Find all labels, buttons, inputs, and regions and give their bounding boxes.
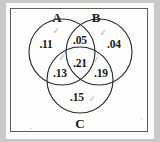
set-label-a: A — [52, 11, 61, 24]
region-value-a-only: .11 — [39, 39, 52, 51]
region-value-a-and-c: .13 — [53, 68, 67, 80]
region-value-b-and-c: .19 — [94, 68, 108, 80]
region-value-a-b-c: .21 — [73, 58, 87, 70]
region-value-b-only: .04 — [107, 39, 121, 51]
set-label-c: C — [75, 117, 84, 130]
region-value-c-only: .15 — [70, 92, 84, 104]
venn-diagram-figure: A B C .11 .05 .04 .13 .21 .19 .15 ✓ ✓ ✓ … — [0, 0, 160, 142]
region-value-a-and-b: .05 — [73, 35, 87, 47]
set-label-b: B — [92, 11, 101, 24]
